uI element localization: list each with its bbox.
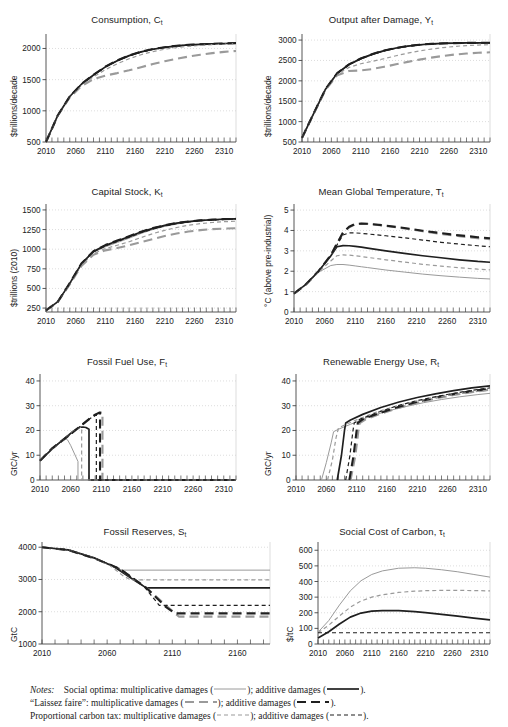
series-laissez-faire-multiplicative [46,228,236,310]
y-tick-label: 30 [281,402,291,411]
x-tick-label: 2060 [317,485,336,494]
x-tick-label: 2310 [469,317,488,326]
x-tick-label: 2010 [309,649,328,658]
y-tick-label: 10 [25,451,35,460]
series-social-optimum-additive [40,427,236,480]
x-tick-label: 2310 [470,649,489,658]
series-carbon-tax-multiplicative [40,427,236,480]
line-key-black-short-dash [329,710,363,723]
series-carbon-tax-additive [40,415,236,480]
x-tick-label: 2160 [126,317,145,326]
x-tick-label: 2110 [163,649,181,658]
panel-mean-global-temperature: Mean Global Temperature, Tt°C (above pre… [254,186,508,356]
y-tick-label: 500 [299,562,313,571]
plot-area-renewable-energy-use: 0102030402010206021102160221022602310 [254,356,508,526]
y-tick-label: 1000 [278,118,297,127]
x-tick-label: 2010 [37,317,56,326]
x-tick-label: 2310 [469,485,488,494]
series-social-optimum-multiplicative [42,547,270,570]
y-tick-label: 1000 [22,245,41,254]
figure-panel-grid: Consumption, Ct$trillions/decade50010001… [0,0,508,727]
y-tick-label: 2 [284,267,289,276]
notes-line-1: Notes: Social optima: multiplicative dam… [30,684,500,697]
y-tick-label: 1000 [22,107,41,116]
x-tick-label: 2060 [98,649,117,658]
y-tick-label: 30 [25,402,35,411]
x-tick-label: 2060 [62,485,81,494]
y-tick-label: 2000 [22,44,41,53]
series-carbon-tax-multiplicative [46,44,236,142]
plot-area-social-cost-of-carbon: 0100200300400500600201020602110216022102… [276,526,508,684]
y-tick-label: 1250 [22,226,41,235]
panel-output-after-damage: Output after Damage, Yt$trillions/decade… [254,14,508,186]
plot-area-mean-global-temperature: 0123452010206021102160221022602310 [254,186,508,356]
notes-line3-b: ); additive damages ( [250,711,329,721]
y-tick-label: 1500 [22,206,41,215]
x-tick-label: 2210 [156,147,175,156]
panel-renewable-energy-use: Renewable Energy Use, RtGtC/yr0102030402… [254,356,508,526]
y-tick-label: 300 [299,593,313,602]
x-tick-label: 2010 [287,485,306,494]
y-tick-label: 20 [25,426,35,435]
panel-fossil-reserves: Fossil Reserves, StGtC100020003000400020… [0,526,290,684]
x-tick-label: 2010 [37,147,56,156]
series-social-optimum-multiplicative [318,568,490,633]
panel-fossil-fuel-use: Fossil Fuel Use, FtGtC/yr010203040201020… [0,356,254,526]
series-laissez-faire-additive [349,389,490,480]
y-tick-label: 1 [284,288,289,297]
x-tick-label: 2210 [407,317,426,326]
y-tick-label: 400 [299,578,313,587]
notes-label: Notes: [30,685,54,695]
x-tick-label: 2160 [378,485,397,494]
y-tick-label: 2500 [278,56,297,65]
y-tick-label: 200 [299,609,313,618]
notes-line-2: “Laissez faire”: multiplicative damages … [30,697,500,710]
notes-line2-b: ); additive damages ( [218,698,297,708]
x-tick-label: 2260 [185,317,204,326]
x-tick-label: 2160 [390,649,409,658]
x-tick-label: 2210 [416,649,435,658]
series-laissez-faire-multiplicative [42,547,270,616]
series-carbon-tax-multiplicative [302,45,490,138]
series-social-optimum-additive [318,611,490,639]
y-tick-label: 3000 [18,575,37,584]
y-tick-label: 1500 [278,97,297,106]
y-tick-label: 40 [281,377,291,386]
series-laissez-faire-multiplicative [40,412,236,480]
x-tick-label: 2110 [352,147,370,156]
y-tick-label: 3000 [278,36,297,45]
x-tick-label: 2110 [97,317,115,326]
x-tick-label: 2310 [215,147,234,156]
series-laissez-faire-additive [294,224,490,294]
line-key-thick-black-solid [326,684,360,697]
x-tick-label: 2160 [123,485,142,494]
series-laissez-faire-multiplicative [46,51,236,142]
notes-line1-c: ). [360,685,365,695]
panel-capital-stock: Capital Stock, Kt$trillions (2010)250500… [0,186,254,356]
x-tick-label: 2210 [410,147,429,156]
y-tick-label: 20 [281,426,291,435]
x-tick-label: 2310 [215,485,234,494]
x-tick-label: 2060 [336,649,355,658]
y-tick-label: 10 [281,451,291,460]
x-tick-label: 2110 [92,485,110,494]
x-tick-label: 2060 [67,147,86,156]
x-tick-label: 2110 [363,649,381,658]
y-tick-label: 600 [299,546,313,555]
line-key-thin-gray-solid [213,684,247,697]
series-laissez-faire-multiplicative [302,52,490,138]
y-tick-label: 5 [284,206,289,215]
series-social-optimum-additive [337,386,490,480]
x-tick-label: 2210 [156,317,175,326]
y-tick-label: 2000 [278,77,297,86]
x-tick-label: 2260 [440,147,459,156]
plot-area-fossil-reserves: 10002000300040002010206021102160 [0,526,290,684]
x-tick-label: 2060 [67,317,86,326]
x-tick-label: 2110 [346,317,364,326]
x-tick-label: 2160 [126,147,145,156]
x-tick-label: 2160 [228,649,247,658]
y-tick-label: 250 [27,304,41,313]
x-tick-label: 2260 [443,649,462,658]
x-tick-label: 2260 [438,485,457,494]
x-tick-label: 2160 [381,147,400,156]
